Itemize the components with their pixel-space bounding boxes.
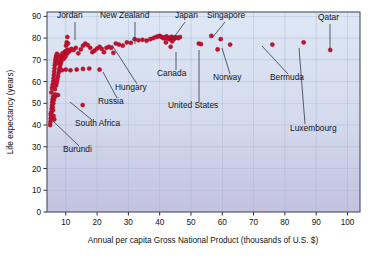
data-point [164, 40, 168, 44]
data-point [121, 44, 125, 48]
y-tick-label: 90 [32, 12, 42, 21]
x-tick-label: 70 [249, 218, 259, 227]
data-point [66, 41, 70, 45]
scatter-plot: 102030405060708090100 010203040506070809… [0, 0, 373, 262]
data-point [68, 68, 72, 72]
y-tick-label: 80 [32, 34, 42, 43]
annotation-label: Jordan [57, 10, 83, 20]
y-tick-label: 20 [32, 165, 42, 174]
data-point [125, 40, 129, 44]
annotation-label: Bermuda [270, 72, 304, 82]
x-tick-label: 100 [341, 218, 355, 227]
y-axis-title: Life expectancy (years) [6, 69, 15, 154]
annotation-label: Luxembourg [290, 123, 337, 133]
annotation-label: New Zealand [100, 10, 150, 20]
data-point [60, 68, 64, 72]
data-point [219, 37, 223, 41]
annotation-label: Hungary [115, 82, 147, 92]
data-point [81, 67, 85, 71]
data-point [49, 90, 53, 94]
data-point [64, 68, 68, 72]
x-tick-label: 90 [312, 218, 322, 227]
data-point [87, 66, 91, 70]
data-point [76, 51, 80, 55]
x-tick-label: 20 [93, 218, 103, 227]
data-point [111, 51, 115, 55]
annotation-label: Burundi [63, 144, 92, 154]
data-point [228, 43, 232, 47]
x-tick-label: 60 [218, 218, 228, 227]
chart-figure: 102030405060708090100 010203040506070809… [0, 0, 373, 262]
data-point [215, 47, 219, 51]
data-point [74, 46, 78, 50]
data-point [199, 42, 203, 46]
annotation-label: South Africa [75, 118, 121, 128]
x-tick-label: 80 [280, 218, 290, 227]
data-point [117, 43, 121, 47]
annotation-label: United States [168, 100, 218, 110]
annotation-label: Japan [175, 10, 198, 20]
data-point [178, 35, 182, 39]
y-tick-label: 30 [32, 143, 42, 152]
y-tick-label: 0 [36, 208, 41, 217]
data-point [88, 46, 92, 50]
data-point [129, 41, 133, 45]
data-point [52, 117, 56, 121]
x-tick-label: 50 [186, 218, 196, 227]
data-point [75, 68, 79, 72]
x-tick-label: 30 [124, 218, 134, 227]
y-tick-label: 50 [32, 99, 42, 108]
annotation-label: Norway [213, 72, 242, 82]
annotation-label: Canada [157, 68, 187, 78]
y-tick-label: 10 [32, 186, 42, 195]
annotation-label: Russia [98, 96, 124, 106]
x-axis-title: Annual per capita Gross National Product… [88, 236, 319, 245]
data-point [102, 50, 106, 54]
data-point [56, 93, 60, 97]
data-point [136, 38, 140, 42]
data-point [302, 40, 306, 44]
data-point [65, 35, 69, 39]
y-tick-label: 60 [32, 78, 42, 87]
x-tick-label: 10 [61, 218, 71, 227]
annotation-label: Qatar [318, 12, 339, 22]
data-point [79, 47, 83, 51]
plot-area-background [47, 12, 360, 212]
data-point [97, 68, 101, 72]
data-point [81, 103, 85, 107]
data-point [169, 45, 173, 49]
y-tick-label: 70 [32, 56, 42, 65]
annotation-label: Singapore [207, 10, 246, 20]
data-point [140, 38, 144, 42]
x-tick-label: 40 [155, 218, 165, 227]
y-tick-label: 40 [32, 121, 42, 130]
data-point [51, 108, 55, 112]
data-point [270, 43, 274, 47]
